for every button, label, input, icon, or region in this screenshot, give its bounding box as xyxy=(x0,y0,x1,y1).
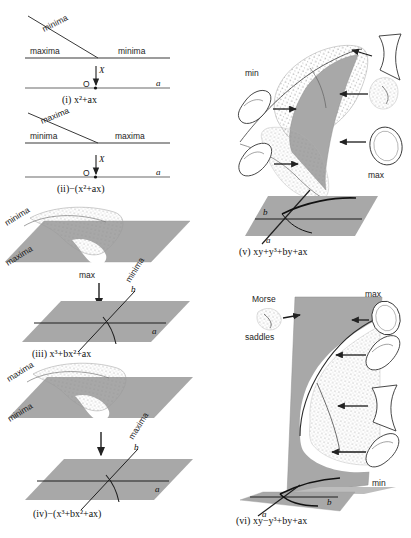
panel-iii-caption: (iii) x³+bx²+ax xyxy=(32,348,91,360)
panel-vi-label-min: min xyxy=(372,478,386,488)
panel-v-inset-stipple xyxy=(369,78,398,109)
panel-v-axis-label-b: b xyxy=(263,207,268,217)
panel-i-arrow-label-x: X xyxy=(98,65,105,75)
panel-ii-arrow-label-x: X xyxy=(98,154,105,164)
panel-i-origin-dot xyxy=(94,86,97,89)
panel-ii-axis-label-a: a xyxy=(156,167,161,177)
panel-i-label-maxima-left: maxima xyxy=(30,46,60,56)
figure-canvas: minima maxima minima X O a (i) x²+ax max… xyxy=(0,0,411,538)
panel-ii-origin-label: O xyxy=(83,168,90,178)
panel-i-label-minima-right: minima xyxy=(118,46,146,56)
panel-v-caption: (v) xy+y³+by+ax xyxy=(239,246,308,258)
panel-iv-caption: (iv)−(x³+bx²+ax) xyxy=(33,508,101,520)
panel-v-label-min: min xyxy=(245,68,259,78)
panel-i-caption: (i) x²+ax xyxy=(62,94,97,106)
panel-ii-origin-dot xyxy=(94,175,97,178)
panel-vi-label-max: max xyxy=(365,289,382,299)
panel-vi-axis-label-b: b xyxy=(327,497,332,507)
panel-i-axis-label-a: a xyxy=(156,78,161,88)
panel-vi-label-saddles: saddles xyxy=(245,332,274,342)
panel-iv-axis-label-a: a xyxy=(155,484,160,494)
panel-v-axis-label-a: a xyxy=(266,235,271,245)
panel-vi-caption: (vi) xy−y³+by+ax xyxy=(236,515,307,527)
panel-v-label-max: max xyxy=(368,170,385,180)
panel-iii-axis-label-b: b xyxy=(131,284,136,294)
panel-iv-axis-label-b: b xyxy=(134,442,139,452)
panel-ii-caption: (ii)−(x²+ax) xyxy=(57,183,105,195)
panel-vi-label-morse: Morse xyxy=(252,294,276,304)
panel-i-origin-label: O xyxy=(83,79,90,89)
panel-ii-label-minima-left: minima xyxy=(30,131,58,141)
panel-iii-axis-label-a: a xyxy=(152,326,157,336)
panel-iii-label-max: max xyxy=(79,270,96,280)
panel-ii-label-maxima-right: maxima xyxy=(115,131,145,141)
figure-catastrophe-unfoldings: minima maxima minima X O a (i) x²+ax max… xyxy=(0,0,411,538)
